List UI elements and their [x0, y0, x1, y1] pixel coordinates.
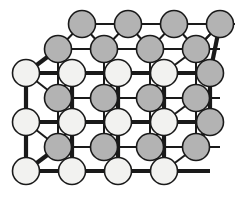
atom-light: [151, 109, 178, 136]
atom-dark: [197, 60, 224, 87]
atom-light: [151, 60, 178, 87]
atom-dark: [137, 36, 164, 63]
atom-dark: [45, 134, 72, 161]
atom-light: [59, 109, 86, 136]
atom-light: [105, 109, 132, 136]
atom-dark: [183, 134, 210, 161]
atom-light: [151, 158, 178, 185]
atom-dark: [197, 109, 224, 136]
crystal-lattice-figure: [0, 0, 235, 198]
atom-dark: [161, 11, 188, 38]
atom-dark: [45, 85, 72, 112]
atom-light: [13, 60, 40, 87]
atom-dark: [45, 36, 72, 63]
atom-dark: [137, 85, 164, 112]
atom-light: [105, 158, 132, 185]
atom-light: [13, 158, 40, 185]
atom-dark: [69, 11, 96, 38]
atom-light: [59, 158, 86, 185]
atom-dark: [183, 85, 210, 112]
atom-light: [59, 60, 86, 87]
atom-dark: [115, 11, 142, 38]
atom-light: [13, 109, 40, 136]
atom-dark: [207, 11, 234, 38]
atom-dark: [91, 134, 118, 161]
atom-dark: [183, 36, 210, 63]
atom-dark: [137, 134, 164, 161]
atom-light: [105, 60, 132, 87]
atom-dark: [91, 36, 118, 63]
lattice-canvas: [0, 0, 235, 198]
atom-dark: [91, 85, 118, 112]
